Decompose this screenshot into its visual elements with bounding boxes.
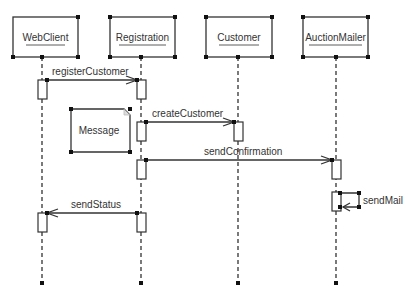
lifeline-end-markers <box>40 281 338 285</box>
message-sendconfirmation[interactable]: sendConfirmation <box>137 146 341 179</box>
message-label: registerCustomer <box>52 66 129 77</box>
activation-bar <box>38 80 47 99</box>
message-label: sendStatus <box>71 199 121 210</box>
message-label: sendConfirmation <box>204 146 282 157</box>
activation-bar <box>137 160 146 179</box>
activation-bar <box>332 160 341 179</box>
note-label: Message <box>79 125 120 136</box>
participant-customer[interactable]: Customer <box>204 15 274 59</box>
activation-bar <box>234 122 243 141</box>
participant-label: Registration <box>116 32 169 43</box>
message-label: sendMail <box>363 195 403 206</box>
participant-label: AuctionMailer <box>305 32 366 43</box>
participant-registration[interactable]: Registration <box>108 15 177 59</box>
message-sendmail[interactable]: sendMail <box>332 191 403 211</box>
message-sendstatus[interactable]: sendStatus <box>38 199 146 232</box>
message-label: createCustomer <box>152 108 224 119</box>
message-createcustomer[interactable]: createCustomer <box>137 108 243 141</box>
activation-bar <box>137 213 146 232</box>
activation-bar <box>137 122 146 141</box>
note-message[interactable]: Message <box>69 107 132 154</box>
message-registercustomer[interactable]: registerCustomer <box>38 66 146 99</box>
activation-bar <box>38 213 47 232</box>
participant-auctionmailer[interactable]: AuctionMailer <box>301 15 370 59</box>
participant-webclient[interactable]: WebClient <box>11 15 80 59</box>
participant-label: WebClient <box>23 32 69 43</box>
sequence-diagram: .ln{stroke:#333;stroke-width:1.3;fill:no… <box>0 0 412 302</box>
participant-label: Customer <box>217 32 261 43</box>
activation-bar <box>137 80 146 99</box>
